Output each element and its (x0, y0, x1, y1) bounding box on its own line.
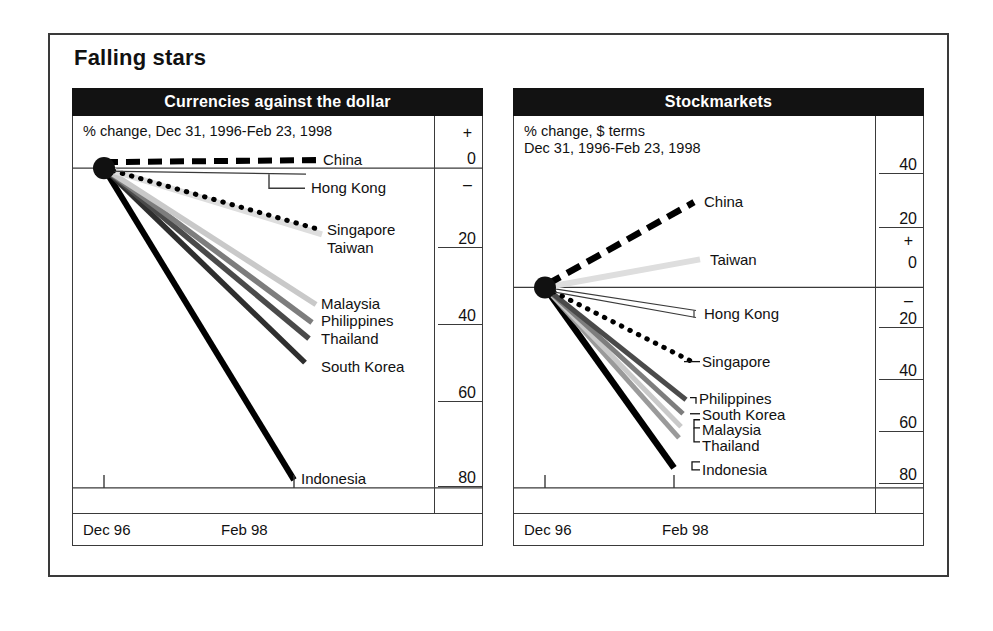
origin-marker (534, 276, 556, 298)
tick-rule (438, 401, 482, 402)
leader-philippines (690, 398, 696, 404)
series-label-taiwan: Taiwan (327, 240, 374, 255)
left-chart-svg (73, 116, 482, 513)
axis-tick-0: 0 (434, 150, 482, 168)
tick-rule (438, 324, 482, 325)
panel-right-plot: % change, $ terms Dec 31, 1996-Feb 23, 1… (513, 116, 924, 514)
series-label-taiwan: Taiwan (710, 252, 757, 267)
panel-currencies: Currencies against the dollar % change, … (72, 88, 483, 546)
axis-plus-sign: + (463, 126, 472, 140)
page-title: Falling stars (74, 45, 206, 71)
series-label-thailand: Thailand (321, 331, 379, 346)
axis-minus-sign: – (904, 294, 913, 308)
series-label-hong-kong: Hong Kong (311, 180, 386, 195)
axis-tick-40: 40 (434, 305, 482, 325)
tick-rule (879, 173, 923, 174)
x-label-dec96: Dec 96 (83, 521, 131, 538)
leader-malaysia (694, 420, 700, 428)
series-label-indonesia: Indonesia (702, 462, 767, 477)
axis-tick-neg20: 20 (875, 308, 923, 328)
series-label-china: China (704, 194, 743, 209)
series-line-china (104, 160, 318, 162)
series-label-malaysia: Malaysia (321, 296, 380, 311)
right-value-axis: 40 20 + 0 – 20 40 (875, 116, 923, 513)
panel-stockmarkets: Stockmarkets % change, $ terms Dec 31, 1… (513, 88, 924, 546)
tick-rule (438, 486, 482, 487)
series-label-singapore: Singapore (702, 354, 770, 369)
tick-rule (879, 227, 923, 228)
leader-indonesia (692, 462, 700, 470)
panel-right-heading: Stockmarkets (513, 88, 924, 116)
panel-left-plot: % change, Dec 31, 1996-Feb 23, 1998 (72, 116, 483, 514)
panel-left-heading: Currencies against the dollar (72, 88, 483, 116)
tick-rule (438, 247, 482, 248)
leader-hong-kong (269, 174, 305, 188)
tick-rule (879, 483, 923, 484)
tick-rule (879, 379, 923, 380)
tick-rule (879, 327, 923, 328)
series-label-hong-kong: Hong Kong (704, 306, 779, 321)
x-label-dec96: Dec 96 (524, 521, 572, 538)
series-label-singapore: Singapore (327, 222, 395, 237)
panel-right-footer: Dec 96 Feb 98 (513, 514, 924, 546)
axis-tick-80: 80 (434, 467, 482, 487)
axis-tick-20: 20 (434, 228, 482, 248)
series-label-china: China (323, 152, 362, 167)
axis-tick-0: 0 (875, 252, 923, 272)
axis-tick-neg80: 80 (875, 464, 923, 484)
axis-tick-neg40: 40 (875, 360, 923, 380)
axis-minus-sign: – (463, 178, 472, 192)
tick-rule (879, 431, 923, 432)
series-label-malaysia: Malaysia (702, 422, 761, 437)
chart-page: Falling stars Currencies against the dol… (0, 0, 993, 631)
x-label-feb98: Feb 98 (221, 521, 268, 538)
axis-tick-60: 60 (434, 382, 482, 402)
panel-left-footer: Dec 96 Feb 98 (72, 514, 483, 546)
axis-plus-sign: + (904, 234, 913, 248)
series-label-south-korea: South Korea (702, 407, 785, 422)
series-label-south-korea: South Korea (321, 359, 404, 374)
x-label-feb98: Feb 98 (662, 521, 709, 538)
left-value-axis: + 0 – 20 40 60 80 (434, 116, 482, 513)
series-label-thailand: Thailand (702, 438, 760, 453)
series-label-philippines: Philippines (699, 391, 772, 406)
series-label-indonesia: Indonesia (301, 471, 366, 486)
series-label-philippines: Philippines (321, 313, 394, 328)
axis-tick-pos20: 20 (875, 208, 923, 228)
axis-tick-pos40: 40 (875, 154, 923, 174)
axis-tick-neg60: 60 (875, 412, 923, 432)
series-line-hong-kong (104, 171, 306, 174)
origin-marker (93, 157, 115, 179)
leader-thailand (694, 428, 700, 442)
